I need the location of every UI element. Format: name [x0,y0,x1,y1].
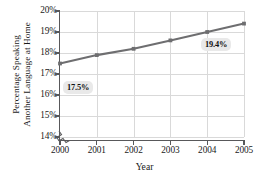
x-axis-tick-label: 2003 [154,146,186,155]
data-point-marker [242,22,246,26]
x-axis-tick-label: 2000 [44,146,76,155]
y-axis-tick [55,52,60,53]
data-point-marker [95,53,99,57]
y-axis-tick [55,73,60,74]
x-axis-tick [59,140,60,145]
data-point-marker [132,47,136,51]
x-axis-tick-labels: 200020012002200320042005 [0,146,259,158]
x-axis-title: Year [0,161,259,172]
x-axis-tick-label: 2005 [228,146,259,155]
x-axis-tick [207,140,208,145]
y-axis-tick [55,136,60,137]
y-axis-tick [55,115,60,116]
data-point-marker [205,30,209,34]
x-axis-tick [96,140,97,145]
x-axis-tick-label: 2002 [118,146,150,155]
y-axis-tick [55,31,60,32]
x-axis-tick [243,140,244,145]
data-point-marker [169,39,173,43]
x-axis-tick-label: 2004 [191,146,223,155]
y-axis-tick [55,94,60,95]
y-axis-tick [55,10,60,11]
data-point-marker [58,62,62,66]
chart-container: Percentage Speaking Another Language at … [0,0,259,177]
data-label-callout: 17.5% [63,81,93,95]
x-axis-tick-label: 2001 [81,146,113,155]
x-axis-tick [133,140,134,145]
x-axis-tick [170,140,171,145]
data-label-callout: 19.4% [201,38,231,52]
